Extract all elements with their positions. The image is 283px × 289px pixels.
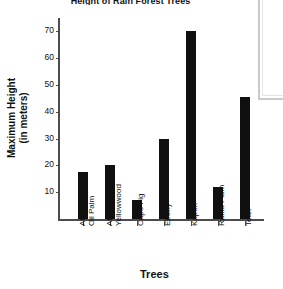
y-tick-label: 20 (34, 159, 54, 169)
plot-area: 10203040506070 (58, 18, 258, 221)
category-label-teak: Teak (244, 209, 253, 226)
y-tick-label: 40 (34, 106, 54, 116)
y-tick-label: 50 (34, 79, 54, 89)
category-label-line: Yellowwood (114, 184, 123, 226)
category-label-line: Oil Palm (87, 196, 96, 226)
y-tick-mark (56, 85, 60, 86)
chart-page: Height of Rain Forest Trees 102030405060… (0, 0, 283, 289)
y-tick-mark (56, 165, 60, 166)
y-tick-mark (56, 58, 60, 59)
y-tick-mark (56, 112, 60, 113)
y-tick-label: 30 (34, 133, 54, 143)
category-label-cape-fig: Cape Fig (136, 194, 145, 226)
category-label-line: Raffia Palm (217, 185, 226, 226)
side-panel-fragment[interactable] (258, 0, 283, 100)
bar-kapok (186, 31, 196, 219)
side-panel-inner-border (262, 0, 283, 96)
y-tick-label: 70 (34, 25, 54, 35)
y-axis-line (58, 18, 60, 221)
y-tick-mark (56, 192, 60, 193)
category-label-african-oil-palm: AfricanOil Palm (78, 196, 96, 226)
category-label-raffia-palm: Raffia Palm (217, 185, 226, 226)
category-label-ebony: Ebony (163, 203, 172, 226)
bar-teak (240, 97, 250, 219)
chart-title: Height of Rain Forest Trees (0, 0, 261, 5)
category-label-line: Ebony (163, 203, 172, 226)
category-label-kapok: Kapok (190, 203, 199, 226)
category-label-african-yellowwood: AfricanYellowwood (105, 184, 123, 226)
y-tick-label: 10 (34, 186, 54, 196)
y-tick-label: 60 (34, 52, 54, 62)
y-tick-mark (56, 139, 60, 140)
y-axis-title-line1: Maximum Height (6, 58, 18, 178)
category-label-line: Cape Fig (136, 194, 145, 226)
y-tick-mark (56, 31, 60, 32)
category-label-line: African (105, 184, 114, 226)
y-axis-title: Maximum Height (in meters) (6, 58, 30, 178)
y-axis-title-line2: (in meters) (18, 58, 30, 178)
category-label-line: Kapok (190, 203, 199, 226)
x-axis-title: Trees (140, 268, 169, 280)
category-label-line: Teak (244, 209, 253, 226)
